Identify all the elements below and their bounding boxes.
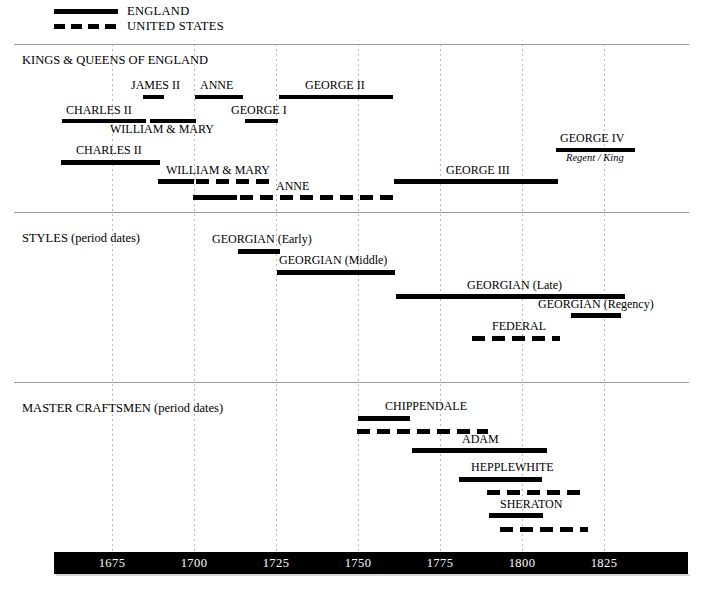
section-divider-craftsmen [14,382,689,383]
bar-sheraton-dashed [500,527,588,532]
bar-sheraton-solid [489,513,543,518]
axis-tick-1750: 1750 [345,556,372,571]
bar-anne-b-dashed [240,195,393,200]
bar-label-charles-ii-b: CHARLES II [76,143,142,158]
bar-label-george-i: GEORGE I [231,103,287,118]
section-divider-top [14,44,689,45]
legend-label-united-states: UNITED STATES [127,19,224,34]
bar-label-chippendale: CHIPPENDALE [385,399,467,414]
bar-william-mary-b-dashed [196,179,269,184]
axis-tick-1725: 1725 [263,556,290,571]
bar-label-anne-b: ANNE [276,179,309,194]
bar-label-hepplewhite: HEPPLEWHITE [471,460,554,475]
bar-label-george-iii: GEORGE III [446,163,510,178]
bar-sublabel-george-iv-regent-king: Regent / King [566,152,624,163]
bar-label-william-mary-a: WILLIAM & MARY [110,122,214,137]
legend-item-united-states: UNITED STATES [54,19,224,34]
axis-tick-1825: 1825 [591,556,618,571]
bar-label-georgian-early: GEORGIAN (Early) [212,232,312,247]
legend: ENGLAND UNITED STATES [54,4,224,34]
timeline-chart: ENGLAND UNITED STATES KINGS & QUEENS OF … [0,0,703,590]
bar-george-ii [279,95,393,99]
bar-label-charles-ii-a: CHARLES II [66,103,132,118]
bar-james-ii [143,95,164,99]
section-title-styles: STYLES (period dates) [22,231,140,246]
bar-anne-a [195,95,243,99]
bar-label-george-iv: GEORGE IV [560,131,624,146]
bar-label-georgian-regency: GEORGIAN (Regency) [538,297,654,312]
gridline-1750 [358,44,359,552]
bar-label-sheraton: SHERATON [500,497,562,512]
bar-anne-b-solid [193,195,237,200]
axis-tick-1800: 1800 [509,556,536,571]
bar-chippendale-solid [358,416,410,421]
bar-label-georgian-middle: GEORGIAN (Middle) [279,253,387,268]
legend-item-england: ENGLAND [54,4,224,19]
section-divider-styles [14,212,689,213]
axis-tick-1775: 1775 [427,556,454,571]
bar-hepplewhite-dashed [487,490,585,495]
bar-william-mary-a [150,119,196,123]
bar-george-i [245,119,278,123]
bar-adam [412,448,547,453]
bar-label-federal: FEDERAL [492,319,546,334]
legend-swatch-solid-icon [54,9,118,14]
bar-george-iii [394,179,558,184]
bar-georgian-middle [277,270,395,275]
axis-tick-1675: 1675 [99,556,126,571]
bar-label-georgian-late: GEORGIAN (Late) [467,278,562,293]
section-title-kings: KINGS & QUEENS OF ENGLAND [22,53,208,68]
legend-label-england: ENGLAND [127,4,190,19]
bar-federal [472,336,560,341]
axis-tick-1700: 1700 [181,556,208,571]
section-title-craftsmen: MASTER CRAFTSMEN (period dates) [22,401,223,416]
bar-label-adam: ADAM [462,432,499,447]
bar-georgian-early [238,249,280,254]
legend-swatch-dashed-icon [54,24,118,29]
bar-georgian-regency [571,313,621,318]
bar-hepplewhite-solid [459,477,542,482]
bar-label-anne-a: ANNE [200,78,233,93]
bar-william-mary-b-solid [158,179,194,184]
axis-shadow [56,574,690,576]
bar-charles-ii-b [61,160,160,165]
bar-label-william-mary-b: WILLIAM & MARY [166,163,270,178]
bar-label-james-ii: JAMES II [131,78,180,93]
bar-label-george-ii: GEORGE II [305,78,365,93]
